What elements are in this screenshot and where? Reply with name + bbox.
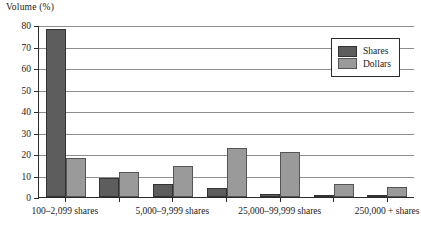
- bar-shares-6: [367, 195, 387, 197]
- legend-item-shares: Shares: [338, 46, 391, 57]
- x-tick-cell-2: [145, 198, 199, 204]
- bar-shares-3: [207, 188, 227, 197]
- x-tick-label-cell-6: 250,000 + shares: [360, 206, 414, 230]
- bar-group: [39, 26, 93, 197]
- x-tick-0: [65, 198, 66, 202]
- y-tick-label-80: 80: [22, 21, 32, 31]
- x-tick-label-2: 5,000–9,999 shares: [135, 206, 209, 216]
- bar-group: [93, 26, 147, 197]
- bar-group: [253, 26, 307, 197]
- bar-dollars-2: [173, 166, 193, 197]
- x-tick-4: [280, 198, 281, 202]
- shares-swatch-icon: [338, 46, 357, 57]
- bar-shares-2: [153, 184, 173, 197]
- y-tick-label-30: 30: [22, 129, 32, 139]
- bar-dollars-0: [66, 158, 86, 197]
- x-axis-ticks: [38, 198, 414, 204]
- bar-dollars-5: [334, 184, 354, 197]
- bar-dollars-1: [119, 172, 139, 197]
- y-tick-label-50: 50: [22, 86, 32, 96]
- x-tick-3: [226, 198, 227, 202]
- x-tick-1: [119, 198, 120, 202]
- x-tick-6: [387, 198, 388, 202]
- x-tick-cell-1: [92, 198, 146, 204]
- y-tick-label-20: 20: [22, 150, 32, 160]
- x-tick-5: [333, 198, 334, 202]
- bar-shares-4: [260, 194, 280, 197]
- bar-dollars-3: [227, 148, 247, 197]
- legend-label-dollars: Dollars: [363, 59, 391, 69]
- x-tick-label-cell-0: 100–2,099 shares: [38, 206, 92, 230]
- y-tick-label-0: 0: [26, 193, 31, 203]
- bar-group: [146, 26, 200, 197]
- x-tick-label-6: 250,000 + shares: [355, 206, 420, 216]
- bar-shares-0: [46, 29, 66, 197]
- bar-shares-1: [99, 178, 119, 197]
- x-tick-label-0: 100–2,099 shares: [32, 206, 99, 216]
- y-tick-label-10: 10: [22, 172, 32, 182]
- legend-item-dollars: Dollars: [338, 58, 391, 69]
- legend: Shares Dollars: [331, 38, 400, 77]
- y-axis-title: Volume (%): [6, 2, 54, 12]
- x-tick-label-cell-5: [307, 206, 361, 230]
- legend-label-shares: Shares: [363, 46, 388, 56]
- x-tick-cell-4: [253, 198, 307, 204]
- y-tick-label-40: 40: [22, 107, 32, 117]
- x-axis-labels: 100–2,099 shares5,000–9,999 shares25,000…: [38, 206, 414, 230]
- bar-dollars-4: [280, 152, 300, 197]
- x-tick-cell-3: [199, 198, 253, 204]
- y-tick-label-60: 60: [22, 64, 32, 74]
- bar-dollars-6: [387, 187, 407, 197]
- bar-group: [200, 26, 254, 197]
- x-tick-label-cell-4: 25,000–99,999 shares: [253, 206, 307, 230]
- x-tick-cell-5: [307, 198, 361, 204]
- x-tick-label-cell-2: 5,000–9,999 shares: [145, 206, 199, 230]
- dollars-swatch-icon: [338, 58, 357, 69]
- x-tick-cell-0: [38, 198, 92, 204]
- x-tick-cell-6: [360, 198, 414, 204]
- bar-chart: Volume (%) 01020304050607080 100–2,099 s…: [0, 0, 421, 242]
- bar-shares-5: [314, 195, 334, 197]
- y-tick-label-70: 70: [22, 43, 32, 53]
- x-tick-2: [172, 198, 173, 202]
